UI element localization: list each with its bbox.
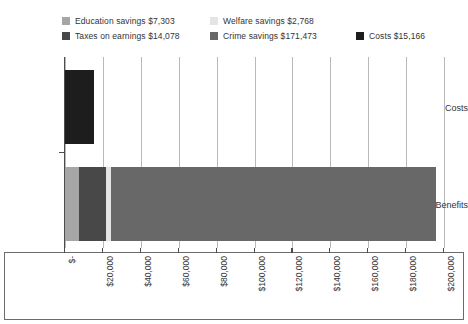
chart-legend: Education savings $7,303Welfare savings … xyxy=(62,13,462,47)
bar-costs[interactable] xyxy=(65,70,94,144)
plot-area xyxy=(64,57,443,248)
x-axis-tick-label: $40,000 xyxy=(144,256,153,287)
bar-segment[interactable] xyxy=(65,70,94,144)
x-axis-tick-mark xyxy=(178,248,179,253)
legend-row-2: Taxes on earnings $14,078Crime savings $… xyxy=(62,28,462,43)
gridline xyxy=(444,57,445,248)
legend-item[interactable]: Crime savings $171,473 xyxy=(210,28,317,43)
legend-swatch-icon xyxy=(62,17,70,25)
legend-swatch-icon xyxy=(210,17,218,25)
bar-segment[interactable] xyxy=(65,167,79,241)
x-axis-tick-mark xyxy=(329,248,330,253)
x-axis-tick-mark xyxy=(140,248,141,253)
stacked-bar-chart: Education savings $7,303Welfare savings … xyxy=(0,0,468,324)
x-axis-tick-label: $140,000 xyxy=(333,256,342,291)
x-axis-tick-mark xyxy=(254,248,255,253)
x-axis-tick-label: $- xyxy=(68,256,77,264)
x-axis-tick-mark xyxy=(291,248,292,253)
x-axis-tick-mark xyxy=(102,248,103,253)
x-axis-tick-label: $80,000 xyxy=(220,256,229,287)
x-axis-tick-mark xyxy=(64,248,65,253)
x-axis-tick-label: $160,000 xyxy=(371,256,380,291)
bar-segment[interactable] xyxy=(111,167,436,241)
legend-label: Crime savings $171,473 xyxy=(223,31,317,41)
y-axis-tick xyxy=(59,152,64,153)
x-axis-ticks: $-$20,000$40,000$60,000$80,000$100,000$1… xyxy=(0,248,468,324)
legend-label: Education savings $7,303 xyxy=(75,16,175,26)
y-category-label-benefits: Benefits xyxy=(410,200,468,210)
x-axis-tick-mark xyxy=(367,248,368,253)
legend-swatch-icon xyxy=(62,32,70,40)
bar-segment[interactable] xyxy=(79,167,106,241)
x-axis-tick-label: $60,000 xyxy=(182,256,191,287)
x-axis-tick-mark xyxy=(405,248,406,253)
legend-item[interactable]: Costs $15,166 xyxy=(356,28,425,43)
legend-item[interactable]: Education savings $7,303 xyxy=(62,13,175,28)
legend-row-1: Education savings $7,303Welfare savings … xyxy=(62,13,462,28)
legend-label: Taxes on earnings $14,078 xyxy=(75,31,180,41)
legend-swatch-icon xyxy=(210,32,218,40)
x-axis-tick-mark xyxy=(443,248,444,253)
x-axis-tick-mark xyxy=(216,248,217,253)
x-axis-tick-label: $200,000 xyxy=(447,256,456,291)
plot-inner xyxy=(65,57,443,248)
bar-benefits[interactable] xyxy=(65,167,436,241)
legend-label: Welfare savings $2,768 xyxy=(223,16,314,26)
legend-item[interactable]: Welfare savings $2,768 xyxy=(210,13,314,28)
x-axis-tick-label: $20,000 xyxy=(106,256,115,287)
x-axis-tick-label: $180,000 xyxy=(409,256,418,291)
legend-item[interactable]: Taxes on earnings $14,078 xyxy=(62,28,180,43)
x-axis-tick-label: $100,000 xyxy=(258,256,267,291)
y-category-label-costs: Costs xyxy=(410,103,468,113)
legend-label: Costs $15,166 xyxy=(369,31,425,41)
legend-swatch-icon xyxy=(356,32,364,40)
x-axis-tick-label: $120,000 xyxy=(295,256,304,291)
